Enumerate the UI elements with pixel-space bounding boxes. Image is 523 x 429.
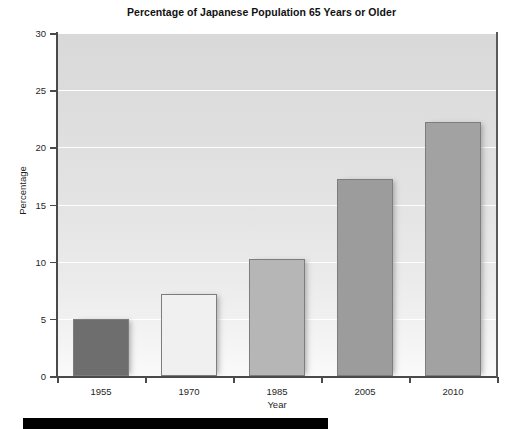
y-axis-tick — [50, 319, 56, 321]
x-axis-tick-label: 1985 — [242, 386, 312, 397]
x-axis-tick — [233, 377, 235, 383]
y-axis-line — [56, 32, 58, 377]
y-axis-tick — [50, 147, 56, 149]
x-axis-tick-label: 1955 — [66, 386, 136, 397]
gridline — [57, 33, 497, 34]
y-axis-tick-label: 10 — [4, 256, 46, 267]
bar-1970[interactable] — [161, 294, 217, 376]
bar-2010[interactable] — [425, 122, 481, 376]
y-axis-tick-label: 5 — [4, 313, 46, 324]
x-axis-tick — [409, 377, 411, 383]
y-axis-tick-label: 25 — [4, 85, 46, 96]
y-axis-tick-label: 0 — [4, 371, 46, 382]
bar-chart: Percentage of Japanese Population 65 Yea… — [0, 0, 523, 429]
gridline — [57, 90, 497, 91]
x-axis-label: Year — [57, 399, 497, 410]
y-axis-tick — [50, 376, 56, 378]
x-axis-tick-label: 2005 — [330, 386, 400, 397]
y-axis-tick — [50, 262, 56, 264]
x-axis-tick — [145, 377, 147, 383]
x-axis-tick — [321, 377, 323, 383]
y-axis-tick — [50, 33, 56, 35]
x-axis-tick-label: 1970 — [154, 386, 224, 397]
bar-1985[interactable] — [249, 259, 305, 376]
chart-title: Percentage of Japanese Population 65 Yea… — [0, 6, 523, 18]
plot-area — [57, 33, 497, 376]
x-axis-tick — [497, 377, 499, 383]
y-axis-tick — [50, 90, 56, 92]
bar-1955[interactable] — [73, 319, 129, 376]
footer-black-band — [23, 418, 328, 429]
bar-2005[interactable] — [337, 179, 393, 376]
y-axis-tick — [50, 205, 56, 207]
y-axis-label: Percentage — [17, 151, 28, 231]
x-axis-line — [56, 376, 498, 378]
y-axis-tick-label: 30 — [4, 28, 46, 39]
x-axis-tick — [57, 377, 59, 383]
x-axis-tick-label: 2010 — [418, 386, 488, 397]
plot-right-border — [496, 32, 498, 377]
